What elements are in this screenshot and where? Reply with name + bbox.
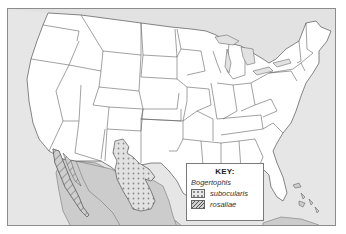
cuba [263, 217, 319, 226]
legend-title: KEY: [191, 167, 259, 176]
legend-genus: Bogertophis [191, 178, 259, 187]
legend-entry-subocularis: subocularis [191, 189, 259, 198]
legend-label: rosaliae [210, 200, 236, 209]
hatch-pattern-swatch-icon [191, 200, 205, 209]
bahamas [293, 183, 319, 213]
dot-pattern-swatch-icon [191, 189, 205, 198]
range-map [8, 9, 336, 226]
legend-entry-rosaliae: rosaliae [191, 200, 259, 209]
map-frame: KEY: Bogertophis subocularis rosaliae [7, 8, 336, 226]
map-legend: KEY: Bogertophis subocularis rosaliae [186, 163, 264, 221]
legend-label: subocularis [210, 189, 248, 198]
